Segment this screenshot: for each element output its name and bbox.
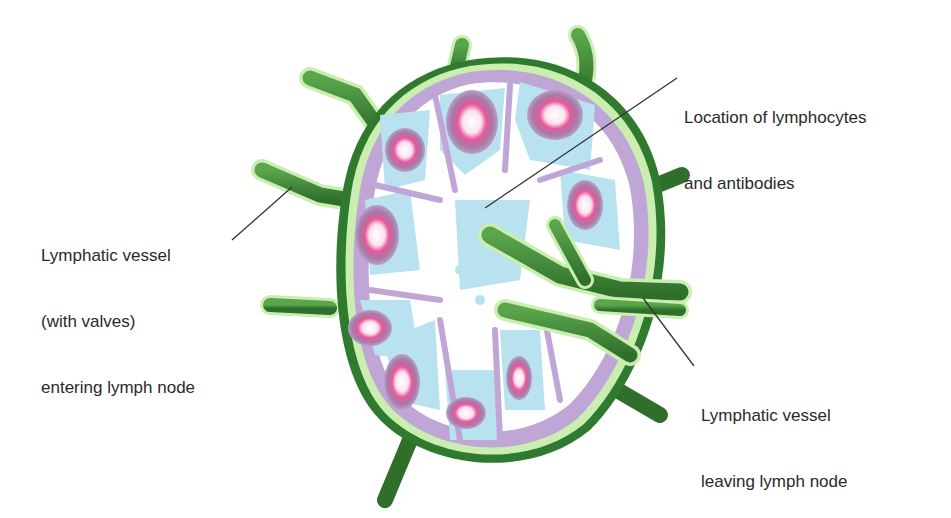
label-line: leaving lymph node — [701, 471, 847, 493]
label-line: and antibodies — [684, 173, 866, 195]
label-efferent-vessel: Lymphatic vessel leaving lymph node — [701, 361, 847, 515]
label-line: entering lymph node — [41, 377, 195, 399]
label-line: Lymphatic vessel — [701, 405, 847, 427]
label-line: Location of lymphocytes — [684, 107, 866, 129]
label-line: (with valves) — [41, 311, 195, 333]
lymph-node — [336, 57, 665, 463]
label-lymphocytes: Location of lymphocytes and antibodies — [684, 63, 866, 217]
label-line: Lymphatic vessel — [41, 245, 195, 267]
leader-line-afferent — [232, 187, 292, 240]
label-afferent-vessel: Lymphatic vessel (with valves) entering … — [41, 201, 195, 421]
lymph-node-diagram: Location of lymphocytes and antibodies L… — [0, 0, 951, 518]
